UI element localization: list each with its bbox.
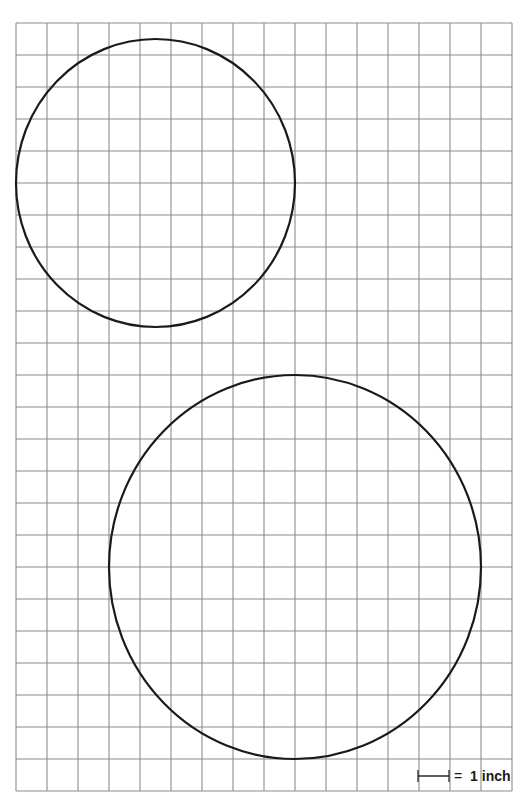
scale-unit-label: 1 inch (470, 768, 510, 784)
scale-label: = 1 inch (454, 768, 511, 784)
scale-equals: = (454, 768, 462, 784)
scale-bar (418, 770, 449, 782)
circles (16, 39, 481, 759)
grid (16, 23, 512, 791)
grid-figure: = 1 inch (0, 0, 530, 809)
scale-legend: = 1 inch (418, 768, 511, 784)
